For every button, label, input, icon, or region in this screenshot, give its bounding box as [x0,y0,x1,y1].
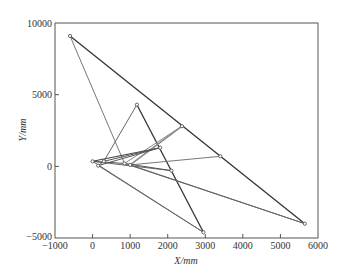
node-B [303,222,306,225]
node-K [123,162,126,165]
x-tick-label: 1000 [120,240,140,251]
member-J-C [98,166,203,233]
member-A-K [70,36,124,164]
node-M [102,160,105,163]
node-F [219,155,222,158]
node-C [202,231,205,234]
truss-node-plot: −10000100020003000400050006000 −50000500… [0,0,346,280]
x-axis-label: X/mm [173,255,197,266]
y-tick-label: 5000 [32,89,52,100]
member-E-L [130,126,182,165]
node-I [91,160,94,163]
node-J [97,164,100,167]
member-D-C [137,105,204,233]
member-E-K [125,126,182,163]
y-axis-label: Y/mm [17,119,28,142]
x-tick-label: 3000 [195,240,215,251]
node-H [170,169,173,172]
x-tick-label: 4000 [233,240,253,251]
node-E [180,125,183,128]
member-M-G [104,148,160,162]
node-A [68,34,71,37]
y-tick-label: 10000 [27,18,52,29]
node-L [129,163,132,166]
x-axis-ticks: −10000100020003000400050006000 [42,234,328,251]
member-L-B [130,165,305,224]
member-F-L [130,156,220,165]
node-D [135,103,138,106]
y-tick-label: 0 [47,161,52,172]
x-tick-label: 6000 [308,240,328,251]
y-tick-label: −5000 [26,231,52,242]
member-A-B [70,36,305,224]
x-tick-label: 0 [90,240,95,251]
y-axis-ticks: −50000500010000 [26,18,59,243]
node-G [159,146,162,149]
x-tick-label: 2000 [158,240,178,251]
x-tick-label: 5000 [270,240,290,251]
plot-area [68,34,306,234]
